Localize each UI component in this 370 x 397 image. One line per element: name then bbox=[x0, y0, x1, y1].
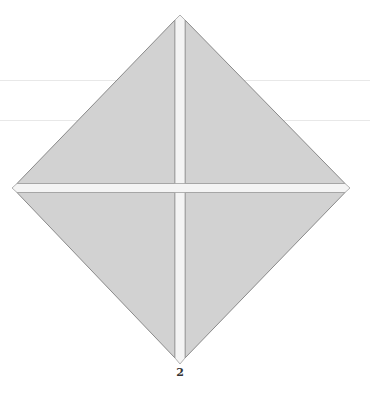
folded-square-diagram bbox=[0, 0, 370, 397]
quadrant-bottom-right bbox=[185, 193, 345, 359]
crease-intersection bbox=[176, 184, 185, 192]
quadrant-bottom-left bbox=[17, 193, 175, 359]
quadrant-top-right bbox=[185, 20, 345, 184]
step-number-label: 2 bbox=[172, 366, 188, 379]
quadrant-top-left bbox=[17, 20, 175, 184]
